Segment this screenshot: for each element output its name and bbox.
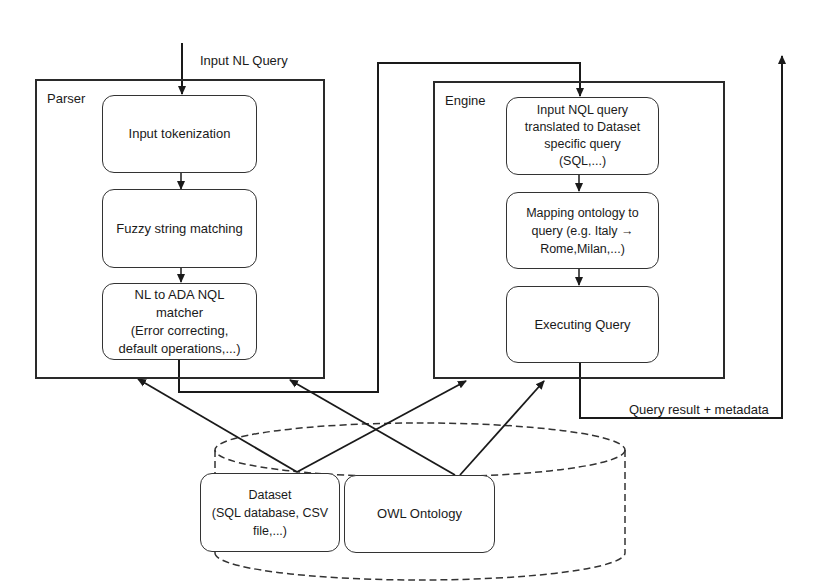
engine-step-executing-query: Executing Query — [506, 286, 659, 363]
query-result-label: Query result + metadata — [629, 402, 769, 417]
parser-title: Parser — [47, 91, 85, 106]
engine-step-translate-query: Input NQL query translated to Dataset sp… — [506, 97, 659, 175]
storage-dataset: Dataset (SQL database, CSV file,...) — [200, 473, 340, 552]
parser-step-nql-matcher: NL to ADA NQL matcher (Error correcting,… — [102, 283, 257, 360]
storage-owl-ontology: OWL Ontology — [344, 475, 495, 553]
parser-step-fuzzy-string-matching: Fuzzy string matching — [102, 189, 257, 268]
parser-step-input-tokenization: Input tokenization — [102, 95, 257, 173]
engine-step-mapping-ontology: Mapping ontology to query (e.g. Italy → … — [506, 192, 659, 269]
input-nl-query-label: Input NL Query — [200, 53, 288, 68]
engine-title: Engine — [445, 93, 485, 108]
